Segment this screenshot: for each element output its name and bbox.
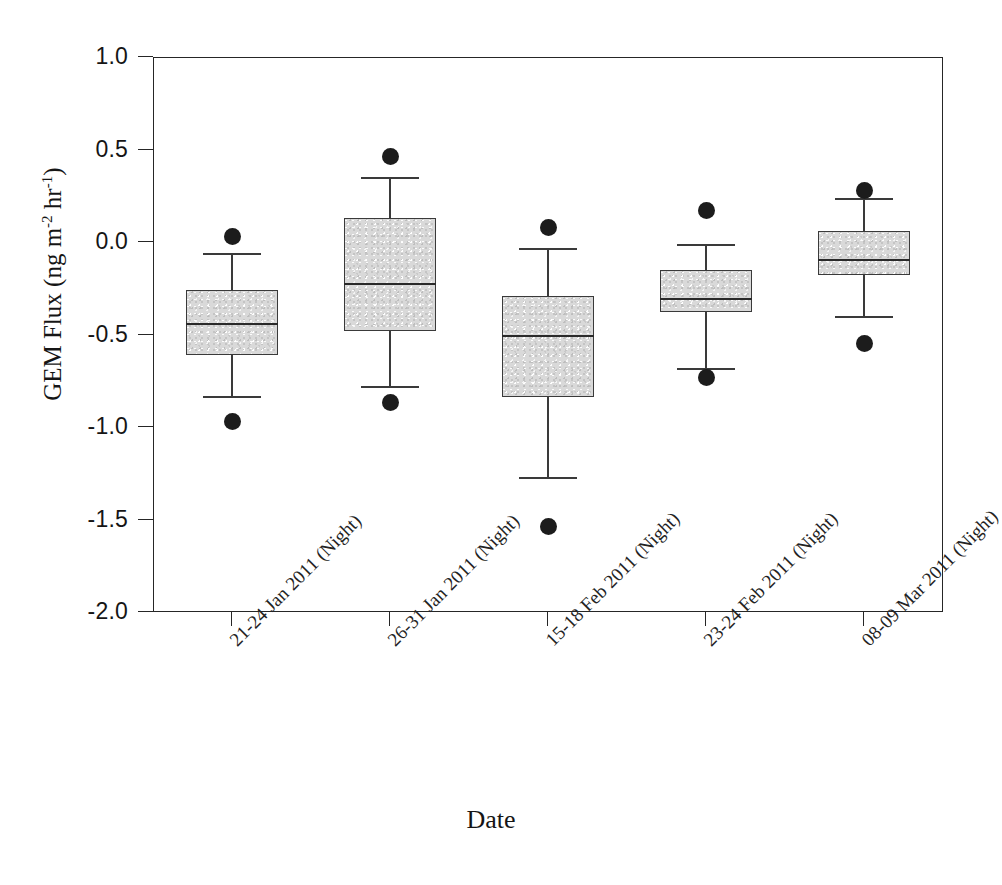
whisker-cap-upper xyxy=(519,248,577,250)
median-line xyxy=(344,283,436,285)
median-line xyxy=(818,259,910,261)
whisker-upper xyxy=(547,248,549,296)
whisker-cap-lower xyxy=(361,386,419,388)
whisker-lower xyxy=(231,355,233,396)
whisker-upper xyxy=(231,253,233,290)
median-line xyxy=(186,323,278,325)
outlier-point xyxy=(856,182,873,199)
whisker-lower xyxy=(705,312,707,368)
whisker-cap-lower xyxy=(203,396,261,398)
whisker-upper xyxy=(705,244,707,270)
outlier-point xyxy=(698,202,715,219)
outlier-point xyxy=(224,413,241,430)
outlier-point xyxy=(540,518,557,535)
whisker-cap-upper xyxy=(677,244,735,246)
outlier-point xyxy=(224,228,241,245)
outlier-point xyxy=(540,219,557,236)
outlier-point xyxy=(382,148,399,165)
median-line xyxy=(660,298,752,300)
whisker-cap-lower xyxy=(519,477,577,479)
median-line xyxy=(502,335,594,337)
whisker-lower xyxy=(863,275,865,316)
box-rect xyxy=(502,296,594,398)
whisker-lower xyxy=(389,331,391,387)
box-rect xyxy=(344,218,436,331)
box-rect xyxy=(818,231,910,275)
outlier-point xyxy=(382,394,399,411)
outlier-point xyxy=(856,335,873,352)
whisker-upper xyxy=(863,198,865,231)
outlier-point xyxy=(698,369,715,386)
whisker-cap-upper xyxy=(203,253,261,255)
x-axis-title: Date xyxy=(0,805,982,835)
whisker-cap-upper xyxy=(361,177,419,179)
whisker-cap-lower xyxy=(835,316,893,318)
whisker-lower xyxy=(547,397,549,477)
box-rect xyxy=(660,270,752,313)
whisker-upper xyxy=(389,177,391,218)
